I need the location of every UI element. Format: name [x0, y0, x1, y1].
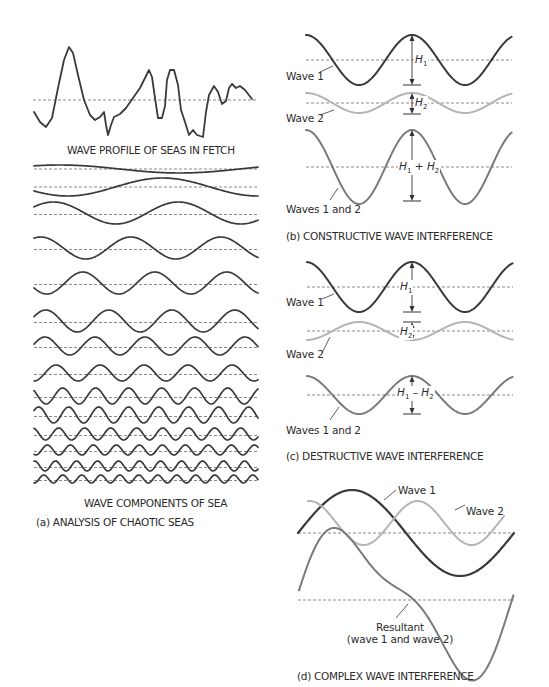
d-wave1-label: Wave 1: [398, 484, 436, 496]
leader-line: [330, 188, 338, 200]
chaotic-sea-profile: [34, 47, 252, 137]
b-combined-label: Waves 1 and 2: [286, 203, 361, 215]
c-combined-label: Waves 1 and 2: [286, 424, 361, 436]
panel-d-title: (d) COMPLEX WAVE INTERFERENCE: [297, 670, 474, 682]
b-h2-label: H2: [414, 96, 428, 111]
components-caption: WAVE COMPONENTS OF SEA: [84, 497, 227, 509]
d-resultant-label: Resultant (wave 1 and wave 2): [330, 621, 470, 645]
c-wave2-label: Wave 2: [286, 348, 324, 360]
panel-b-title: (b) CONSTRUCTIVE WAVE INTERFERENCE: [286, 230, 493, 242]
wave-component-8: [34, 365, 258, 381]
c-h1-label: H1: [399, 280, 413, 295]
c-diff-arrow-head-bottom: [410, 408, 415, 414]
d-resultant-wave: [299, 528, 513, 681]
c-diff-label: H1 – H2: [396, 386, 435, 401]
c-wave1-label: Wave 1: [286, 296, 324, 308]
leader-line: [384, 490, 396, 500]
wave-interference-diagram: [0, 0, 549, 687]
b-sum-arrow-head-bottom: [410, 195, 415, 201]
wave-component-7: [34, 337, 258, 355]
c-h1-arrow-head-bottom: [410, 306, 415, 312]
wave-component-10: [34, 407, 258, 423]
wave-component-14: [34, 475, 258, 483]
b-wave1-label: Wave 1: [286, 70, 324, 82]
wave-component-11: [34, 428, 258, 440]
wave-component-3: [34, 202, 258, 224]
b-h1-label: H1: [414, 53, 428, 68]
leader-line: [330, 407, 339, 420]
wave-component-12: [34, 445, 258, 455]
wave-component-9: [34, 388, 258, 404]
wave-component-6: [34, 310, 258, 332]
leader-line: [455, 505, 465, 510]
wave-component-5: [34, 272, 258, 294]
b-sum-label: H1 + H2: [398, 160, 440, 175]
panel-c-title: (c) DESTRUCTIVE WAVE INTERFERENCE: [286, 450, 483, 462]
b-h1-arrow-head-bottom: [410, 79, 415, 85]
profile-caption: WAVE PROFILE OF SEAS IN FETCH: [67, 144, 235, 156]
c-h2-label: H2: [399, 325, 413, 340]
panel-a-title: (a) ANALYSIS OF CHAOTIC SEAS: [36, 516, 194, 528]
b-wave2-label: Wave 2: [286, 112, 324, 124]
leader-line: [322, 294, 334, 299]
d-wave2-label: Wave 2: [466, 505, 504, 517]
wave-component-13: [34, 461, 258, 471]
leader-line: [396, 604, 408, 618]
wave-component-4: [34, 237, 258, 259]
